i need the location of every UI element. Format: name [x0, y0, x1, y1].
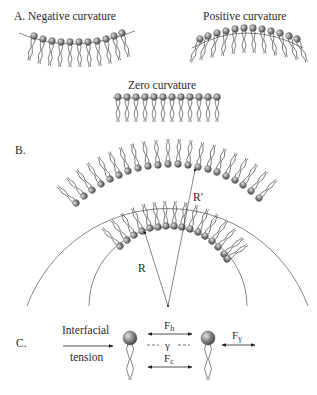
panel-a-letter: A.	[14, 10, 25, 22]
negative-curvature-membrane	[19, 29, 135, 67]
panel-a-negative-label: A. Negative curvature	[14, 11, 116, 23]
radius-r-label: R	[138, 263, 146, 275]
gamma-force-label: Fγ	[232, 330, 242, 343]
panel-c-letter: C.	[16, 338, 27, 350]
interfacial-label: Interfacial	[62, 325, 109, 337]
tension-label: tension	[70, 352, 103, 364]
zero-curvature-label: Zero curvature	[128, 80, 196, 92]
positive-curvature-label: Positive curvature	[203, 11, 286, 23]
small-radius-membrane	[89, 201, 249, 306]
negative-curvature-label: Negative curvature	[28, 10, 116, 22]
radius-lines	[144, 169, 196, 307]
membrane-curvature-diagram	[0, 0, 317, 395]
head-force-label: Fh	[164, 320, 174, 333]
positive-curvature-membrane	[187, 24, 309, 63]
gamma-label: γ	[165, 340, 170, 351]
chain-force-label: Fc	[164, 353, 174, 366]
radius-r-prime-label: R′	[193, 192, 203, 204]
panel-b-letter: B.	[15, 145, 26, 157]
zero-curvature-membrane	[113, 94, 221, 122]
